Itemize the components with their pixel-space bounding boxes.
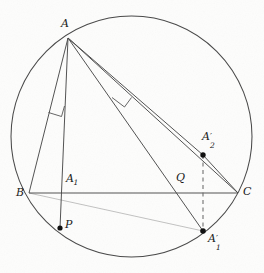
point-dot-A2-prime (200, 152, 205, 157)
label-point-Q: Q (176, 172, 185, 183)
label-point-B: B (16, 187, 24, 198)
label-point-A1: A1 (66, 173, 79, 184)
point-dot-P (57, 225, 62, 230)
geometry-figure: A B C A1 P Q A′1 A′2 (0, 0, 264, 273)
label-point-C: C (243, 186, 251, 197)
geometry-canvas (0, 0, 264, 273)
label-point-A1-prime: A′1 (208, 233, 220, 244)
label-point-A2-prime: A′2 (202, 131, 214, 142)
paper-texture (0, 0, 264, 273)
label-point-P: P (65, 219, 72, 230)
point-dot-A1-prime (200, 228, 206, 234)
label-point-A: A (61, 18, 69, 29)
